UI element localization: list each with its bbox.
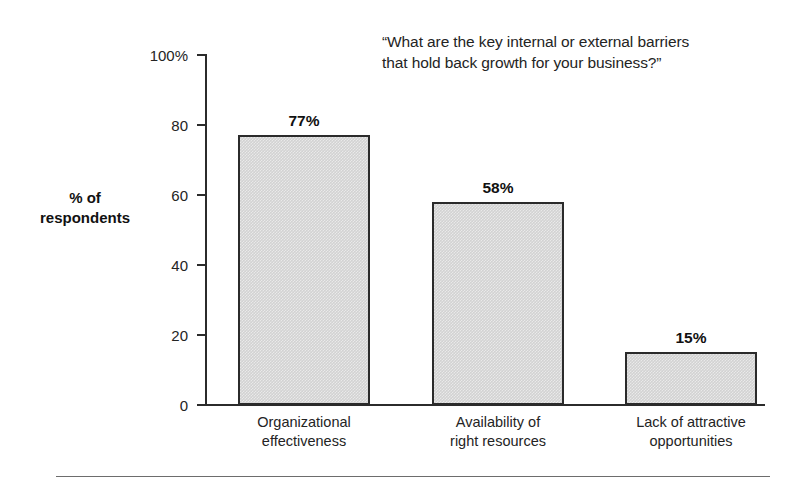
y-tick-20 — [197, 334, 205, 336]
bar-chart: “What are the key internal or external b… — [0, 0, 798, 487]
bar-value-availability-of-right-resources: 58% — [432, 179, 564, 196]
category-label-3-line-2: opportunities — [610, 432, 772, 451]
y-tick-80 — [197, 124, 205, 126]
chart-title-line-2: that hold back growth for your business?… — [382, 52, 782, 73]
category-label-availability-of-right-resources: Availability of right resources — [422, 413, 574, 451]
y-tick-label-20: 20 — [128, 328, 188, 343]
y-tick-0 — [197, 404, 205, 406]
bar-value-lack-of-attractive-opportunities: 15% — [625, 329, 757, 346]
footer-divider — [56, 476, 770, 477]
y-axis-label-line-2: respondents — [20, 208, 150, 228]
chart-title-line-1: “What are the key internal or external b… — [382, 31, 782, 52]
category-label-organizational-effectiveness: Organizational effectiveness — [228, 413, 380, 451]
y-tick-100 — [197, 54, 205, 56]
bar-organizational-effectiveness — [238, 135, 370, 405]
bar-availability-of-right-resources — [432, 202, 564, 405]
category-label-lack-of-attractive-opportunities: Lack of attractive opportunities — [610, 413, 772, 451]
category-label-2-line-1: Availability of — [422, 413, 574, 432]
y-tick-60 — [197, 194, 205, 196]
category-label-1-line-1: Organizational — [228, 413, 380, 432]
y-tick-label-80: 80 — [128, 118, 188, 133]
category-label-1-line-2: effectiveness — [228, 432, 380, 451]
category-label-3-line-1: Lack of attractive — [610, 413, 772, 432]
bar-lack-of-attractive-opportunities — [625, 352, 757, 405]
y-tick-label-0: 0 — [128, 398, 188, 413]
bar-value-organizational-effectiveness: 77% — [238, 112, 370, 129]
y-axis-line — [205, 54, 207, 406]
y-tick-40 — [197, 264, 205, 266]
y-tick-label-100: 100% — [128, 48, 188, 63]
y-tick-label-60: 60 — [128, 188, 188, 203]
chart-title: “What are the key internal or external b… — [382, 31, 782, 73]
category-label-2-line-2: right resources — [422, 432, 574, 451]
y-tick-label-40: 40 — [128, 258, 188, 273]
